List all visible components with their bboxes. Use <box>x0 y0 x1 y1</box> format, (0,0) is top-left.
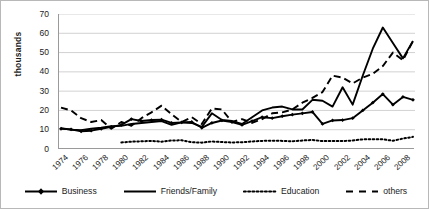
x-tick-label: 1994 <box>246 153 271 177</box>
y-tick-label: 60 <box>19 29 49 38</box>
y-tick-label: 70 <box>19 10 49 19</box>
series-marker <box>341 118 345 122</box>
x-tick-label: 1982 <box>125 153 150 177</box>
x-tick-label: 1990 <box>206 153 231 177</box>
y-tick-label: 10 <box>19 125 49 134</box>
plot-svg <box>59 14 415 149</box>
x-tick-label: 1992 <box>226 153 251 177</box>
series-marker <box>280 114 284 118</box>
x-tick-label: 1988 <box>185 153 210 177</box>
legend-item-others[interactable]: others <box>345 186 407 197</box>
series-marker <box>300 111 304 115</box>
plot-area <box>58 14 414 149</box>
legend-label: others <box>383 186 407 196</box>
series-marker <box>270 116 274 120</box>
legend-swatch-line-dotted <box>243 186 277 197</box>
x-tick-label: 2006 <box>367 153 392 177</box>
x-tick-label: 1974 <box>45 153 70 177</box>
x-tick-label: 1984 <box>145 153 170 177</box>
y-tick-label: 20 <box>19 106 49 115</box>
series-line-education <box>121 137 413 143</box>
x-tick-label: 2002 <box>326 153 351 177</box>
legend-item-education[interactable]: Education <box>243 186 319 197</box>
chart-legend: BusinessFriends/FamilyEducationothers <box>1 182 429 200</box>
y-tick-label: 0 <box>19 145 49 154</box>
x-tick-label: 1976 <box>65 153 90 177</box>
y-tick-label: 50 <box>19 48 49 57</box>
chart-container: thousands 706050403020100 19741976197819… <box>0 0 429 209</box>
series-line-friends-family <box>61 28 413 131</box>
legend-swatch-line-diamond-marker <box>24 186 58 197</box>
legend-swatch-line-dashed <box>345 186 379 197</box>
legend-item-business[interactable]: Business <box>24 186 97 197</box>
x-tick-label: 1978 <box>85 153 110 177</box>
legend-item-friends-family[interactable]: Friends/Family <box>123 186 217 197</box>
y-tick-label: 30 <box>19 87 49 96</box>
legend-swatch-line-solid <box>123 186 157 197</box>
legend-label: Friends/Family <box>161 186 217 196</box>
x-tick-label: 2000 <box>306 153 331 177</box>
series-marker <box>290 113 294 117</box>
y-tick-label: 40 <box>19 67 49 76</box>
x-tick-label: 2004 <box>346 153 371 177</box>
legend-label: Business <box>62 186 97 196</box>
x-tick-label: 2008 <box>387 153 412 177</box>
legend-label: Education <box>281 186 319 196</box>
